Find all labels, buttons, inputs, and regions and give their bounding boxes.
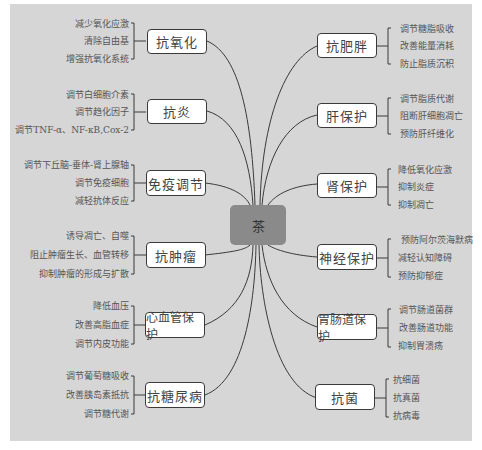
leaf-item: 调节脂质代谢	[400, 94, 454, 105]
leaf-item: 诱导凋亡、自噬	[66, 231, 129, 242]
leaf-item: 清除自由基	[84, 36, 129, 47]
node-label: 神经保护	[319, 248, 375, 267]
node-label: 抗炎	[163, 102, 191, 121]
leaf-item: 增强抗氧化系统	[66, 54, 129, 65]
leaf-item: 减少氧化应激	[75, 19, 129, 30]
node-label: 肾保护	[326, 176, 368, 195]
leaf-item: 抗细菌	[393, 375, 420, 386]
leaf-item: 调节下丘脑-垂体-肾上腺轴	[24, 160, 129, 171]
leaf-item: 抑制凋亡	[398, 200, 434, 211]
leaf-item: 调节TNF-α、NF-κB,Cox-2	[15, 125, 129, 136]
node-neuroprotection: 神经保护	[317, 244, 377, 270]
leaf-item: 改善高脂血症	[75, 320, 129, 331]
node-liver-protection: 肝保护	[317, 103, 377, 128]
node-label: 抗氧化	[156, 32, 198, 51]
leaf-item: 预防阿尔茨海默病	[401, 235, 473, 246]
leaf-item: 预防抑郁症	[398, 271, 443, 282]
leaf-item: 阻断肝细胞凋亡	[400, 111, 463, 122]
node-kidney-protection: 肾保护	[317, 173, 377, 198]
leaf-item: 调节内皮功能	[75, 339, 129, 350]
leaf-item: 抑制炎症	[398, 182, 434, 193]
leaf-item: 调节葡萄糖吸收	[66, 371, 129, 382]
leaf-item: 降低氧化应激	[398, 165, 452, 176]
leaf-item: 调节趋化因子	[75, 107, 129, 118]
leaf-item: 预防肝纤维化	[400, 129, 454, 140]
leaf-item: 调节糖代谢	[84, 409, 129, 420]
leaf-item: 阻止肿瘤生长、血管转移	[30, 250, 129, 261]
node-antitumor: 抗肿瘤	[146, 242, 206, 268]
node-antidiabetic: 抗糖尿病	[145, 382, 205, 408]
leaf-item: 减轻认知障碍	[398, 253, 452, 264]
node-antioxidant: 抗氧化	[147, 29, 207, 54]
leaf-item: 调节糖脂吸收	[400, 24, 454, 35]
leaf-item: 减轻抗体反应	[75, 196, 129, 207]
node-anti-inflammatory: 抗炎	[147, 99, 207, 124]
node-label: 免疫调节	[148, 174, 204, 193]
node-immune-regulation: 免疫调节	[146, 170, 206, 196]
leaf-item: 降低血压	[93, 301, 129, 312]
leaf-item: 抑制肿瘤的形成与扩散	[39, 269, 129, 280]
node-label: 胃肠道保护	[318, 310, 376, 344]
node-label: 抗糖尿病	[147, 386, 203, 405]
center-label: 茶	[252, 216, 265, 235]
leaf-item: 抑制胃溃疡	[398, 341, 443, 352]
node-anti-obesity: 抗肥胖	[317, 33, 377, 58]
node-label: 抗肥胖	[326, 36, 368, 55]
leaf-item: 调节白细胞介素	[66, 90, 129, 101]
leaf-item: 抗病毒	[393, 411, 420, 422]
node-label: 抗肿瘤	[155, 246, 197, 265]
leaf-item: 改善肠道功能	[399, 323, 453, 334]
node-antibacterial: 抗菌	[315, 384, 375, 410]
leaf-item: 防止脂质沉积	[400, 59, 454, 70]
node-label: 抗菌	[331, 388, 359, 407]
leaf-item: 抗真菌	[393, 393, 420, 404]
center-node-tea: 茶	[230, 205, 286, 245]
node-label: 肝保护	[326, 106, 368, 125]
node-gastrointestinal-protection: 胃肠道保护	[317, 314, 377, 340]
node-label: 心血管保护	[146, 308, 204, 342]
leaf-item: 改善能量消耗	[400, 41, 454, 52]
node-cardiovascular-protection: 心血管保护	[145, 312, 205, 338]
leaf-item: 调节肠道菌群	[399, 305, 453, 316]
leaf-item: 调节免疫细胞	[75, 178, 129, 189]
leaf-item: 改善胰岛素抵抗	[66, 390, 129, 401]
